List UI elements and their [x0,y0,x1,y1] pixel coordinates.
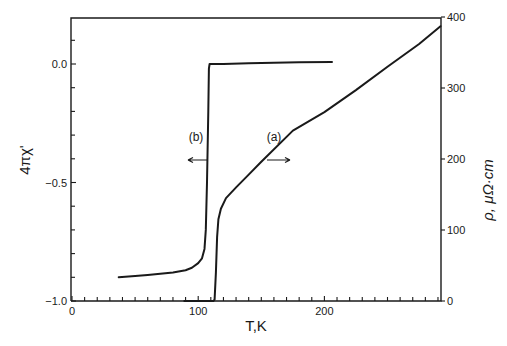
left-y-tick-label: −0.5 [45,177,67,189]
axes-box [71,18,441,301]
resistivity-curve-a [184,26,440,301]
axis-ticks [71,17,445,301]
x-tick-label: 100 [189,305,207,317]
right-y-tick-label: 100 [447,224,465,236]
right-axis-title: ρ, μΩ·cm [479,159,496,222]
chart: 01002000.0−0.5−1.00100200300400 (b)(a) T… [0,0,507,346]
right-y-tick-label: 200 [447,153,465,165]
right-y-tick-label: 300 [447,82,465,94]
left-axis-title: 4πχ' [16,145,33,175]
left-y-tick-label: −1.0 [45,295,67,307]
label-a: (a) [267,130,282,144]
plot-frame [71,18,441,301]
left-y-tick-label: 0.0 [52,58,67,70]
right-y-tick-label: 400 [447,11,465,23]
data-curves [119,26,441,301]
right-y-tick-label: 0 [447,295,453,307]
annotations: (b)(a) [188,130,290,163]
arrow-right-icon [267,158,290,163]
x-tick-label: 0 [69,305,75,317]
x-tick-label: 200 [315,305,333,317]
x-axis-title: T,K [245,317,267,334]
susceptibility-curve-b [119,62,332,277]
label-b: (b) [189,130,204,144]
arrow-left-icon [188,158,207,163]
